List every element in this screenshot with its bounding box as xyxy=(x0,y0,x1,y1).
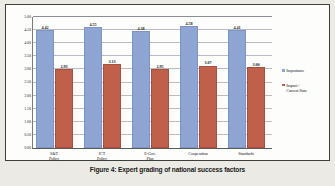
y-axis-tick-label: 4.00 xyxy=(24,41,31,45)
y-axis-tick-label: 5.00 xyxy=(24,15,31,19)
bar-group: 4.553.13ICT Policy xyxy=(81,17,129,148)
category-label: E-Gov. Plan xyxy=(144,151,155,162)
category-label: Cooperation xyxy=(188,151,208,156)
category-label: ICT Policy xyxy=(97,151,107,162)
y-axis-tick-label: 1.00 xyxy=(24,120,31,124)
figure-container: 0.000.501.001.502.002.503.003.504.004.50… xyxy=(0,0,335,186)
y-axis-tick-label: 1.50 xyxy=(24,107,31,111)
y-axis-tick-label: 0.50 xyxy=(24,133,31,137)
y-axis-tick-label: 4.50 xyxy=(24,28,31,32)
bar-value-label: 3.07 xyxy=(205,61,212,65)
y-axis-tick-label: 3.50 xyxy=(24,54,31,58)
bar-group: 4.422.93S&T Policy xyxy=(33,17,81,148)
chart-legend: ImportanceImpact / Current State xyxy=(282,68,330,103)
bar-impact: 3.13 xyxy=(103,64,121,148)
bar-importance: 4.42 xyxy=(36,30,54,148)
bar-value-label: 2.95 xyxy=(157,65,164,69)
bar-importance: 4.55 xyxy=(84,27,102,148)
bars-layer: 4.422.93S&T Policy4.553.13ICT Policy4.38… xyxy=(33,17,272,148)
bar-impact: 2.95 xyxy=(151,69,169,148)
category-label: Standards xyxy=(238,151,254,156)
y-axis-tick-label: 0.00 xyxy=(24,146,31,150)
bar-impact: 3.00 xyxy=(247,67,265,148)
bar-value-label: 4.38 xyxy=(138,27,145,31)
bar-value-label: 4.55 xyxy=(90,23,97,27)
bar-value-label: 3.00 xyxy=(253,63,260,67)
legend-label: Importance xyxy=(286,68,304,74)
bar-importance: 4.41 xyxy=(228,30,246,148)
bar-impact: 2.93 xyxy=(55,69,73,148)
bar-value-label: 4.42 xyxy=(42,26,49,30)
legend-swatch-icon xyxy=(282,84,285,87)
bar-value-label: 4.41 xyxy=(234,26,241,30)
bar-importance: 4.58 xyxy=(180,26,198,148)
chart-frame: 0.000.501.001.502.002.503.003.504.004.50… xyxy=(5,4,330,161)
legend-label: Impact / Current State xyxy=(286,83,307,94)
y-axis-tick-label: 3.00 xyxy=(24,67,31,71)
bar-value-label: 4.58 xyxy=(186,22,193,26)
legend-entry: Importance xyxy=(282,68,330,74)
bar-group: 4.382.95E-Gov. Plan xyxy=(129,17,177,148)
bar-value-label: 3.13 xyxy=(109,60,116,64)
bar-value-label: 2.93 xyxy=(61,65,68,69)
bar-group: 4.413.00Standards xyxy=(225,17,273,148)
category-label: S&T Policy xyxy=(49,151,59,162)
y-axis-tick-label: 2.50 xyxy=(24,80,31,84)
figure-caption: Figure 4: Expert grading of national suc… xyxy=(0,166,335,173)
bar-importance: 4.38 xyxy=(132,31,150,148)
plot-area: 0.000.501.001.502.002.503.003.504.004.50… xyxy=(32,17,272,149)
bar-impact: 3.07 xyxy=(199,66,217,148)
legend-swatch-icon xyxy=(282,69,285,72)
bar-group: 4.583.07Cooperation xyxy=(177,17,225,148)
y-axis-tick-label: 2.00 xyxy=(24,94,31,98)
legend-entry: Impact / Current State xyxy=(282,83,330,94)
